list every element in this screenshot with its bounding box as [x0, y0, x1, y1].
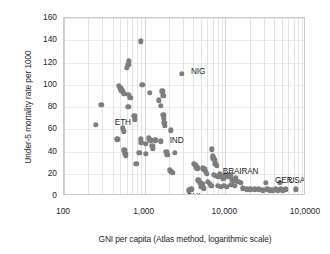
data-point [121, 129, 126, 134]
data-point [147, 90, 152, 95]
x-axis-title: GNI per capita (Atlas method, logarithmi… [63, 234, 307, 244]
data-point [195, 165, 200, 170]
gridline-minor-vertical [294, 18, 295, 194]
gridline-minor-vertical [207, 18, 208, 194]
y-tick-label: 80 [31, 101, 57, 111]
gridline-minor-vertical [302, 18, 303, 194]
gridline-minor-vertical [132, 18, 133, 194]
data-point [134, 161, 139, 166]
data-point [150, 145, 155, 150]
scatter-chart: Under-5 mortality rate per 1000 02040608… [0, 0, 330, 254]
gridline-minor-vertical [282, 18, 283, 194]
gridline-minor-vertical [288, 18, 289, 194]
point-label-ind: IND [170, 136, 184, 145]
data-point [115, 137, 120, 142]
y-tick-label: 100 [31, 79, 57, 89]
data-point [124, 65, 129, 70]
data-point [93, 122, 98, 127]
data-point [143, 151, 148, 156]
point-label-nig: NIG [191, 67, 205, 76]
x-tick-label: 100 [56, 206, 70, 216]
gridline-minor-vertical [141, 18, 142, 194]
y-tick-label: 140 [31, 34, 57, 44]
point-label-iran: IRAN [239, 167, 258, 176]
gridline-minor-vertical [213, 18, 214, 194]
gridline-minor-vertical [298, 18, 299, 194]
x-tick-label: 10,000 [212, 206, 238, 216]
point-label-eth: ETH [115, 118, 131, 127]
gridline-minor-vertical [264, 18, 265, 194]
gridline-minor-vertical [274, 18, 275, 194]
y-tick-label: 160 [31, 12, 57, 22]
data-point [263, 180, 268, 185]
gridline-major-vertical [145, 18, 146, 194]
data-point [204, 171, 209, 176]
point-label-chi: CHI [187, 192, 201, 195]
y-tick-label: 120 [31, 57, 57, 67]
gridline-minor-vertical [88, 18, 89, 194]
point-label-bra: BRA [223, 167, 240, 176]
gridline-minor-vertical [183, 18, 184, 194]
data-point [162, 123, 167, 128]
gridline-minor-vertical [113, 18, 114, 194]
y-tick-label: 40 [31, 146, 57, 156]
y-tick-label: 0 [31, 190, 57, 200]
x-tick-label: 10,0000 [290, 206, 320, 216]
y-tick-label: 60 [31, 123, 57, 133]
y-tick-label: 20 [31, 168, 57, 178]
data-point [201, 186, 206, 191]
data-point [161, 93, 166, 98]
gridline-minor-vertical [137, 18, 138, 194]
point-label-usa: USA [289, 176, 305, 185]
gridline-minor-vertical [120, 18, 121, 194]
plot-area: NIGETHINDBRAIRANGERUSACHI [63, 17, 305, 195]
data-point [168, 128, 173, 133]
x-tick-label: 1,000 [133, 206, 154, 216]
data-point [138, 39, 143, 44]
data-point [232, 183, 237, 188]
data-point [143, 141, 148, 146]
data-point [158, 139, 163, 144]
gridline-major-vertical [64, 18, 65, 194]
data-point [125, 104, 130, 109]
data-point [172, 150, 177, 155]
